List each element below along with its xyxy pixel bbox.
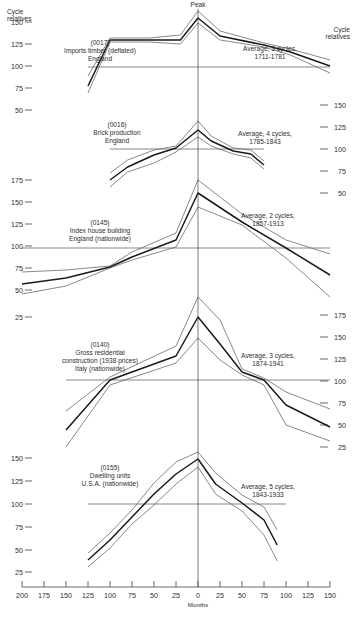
panel-average-label: Average, 4 cycles, — [238, 130, 292, 138]
left-tick-label: 150 — [11, 18, 23, 27]
left-tick-label: 150 — [11, 198, 23, 207]
peak-label: Peak — [190, 1, 206, 8]
left-tick-label: 150 — [11, 454, 23, 463]
right-tick-label: 125 — [334, 123, 346, 132]
right-tick-label: 150 — [334, 101, 346, 110]
panel-average-label: Average, 3 cycles, — [243, 45, 297, 53]
panel-label: Brick production — [93, 129, 141, 137]
panel-0155: (0155)Dwelling unitsU.S.A. (nationwide)A… — [82, 452, 295, 567]
x-tick-label: 125 — [82, 591, 94, 600]
left-y-axis: Cyclerelatives15012510075501751501251007… — [7, 8, 32, 577]
panel-average-label: Average, 3 cycles, — [241, 352, 295, 360]
x-tick-label: 75 — [128, 591, 136, 600]
panel-0145: (0145)Index house buildingEngland (natio… — [22, 180, 330, 297]
panel-average-label: 1785-1843 — [249, 138, 281, 145]
x-tick-label: 125 — [302, 591, 314, 600]
x-tick-label: 175 — [38, 591, 50, 600]
x-tick-label: 0 — [196, 591, 200, 600]
panel-label: Gross residential — [75, 349, 125, 356]
panel-0016: (0016)Brick productionEnglandAverage, 4 … — [93, 121, 292, 187]
left-tick-label: 50 — [15, 106, 23, 115]
panel-average-label: Average, 2 cycles, — [241, 212, 295, 220]
left-tick-label: 50 — [15, 286, 23, 295]
right-tick-label: 150 — [334, 333, 346, 342]
left-tick-label: 125 — [11, 477, 23, 486]
panel-label: U.S.A. (nationwide) — [82, 480, 139, 488]
x-tick-label: 200 — [16, 591, 28, 600]
left-tick-label: 75 — [15, 84, 23, 93]
lower-series-line — [88, 23, 330, 93]
panel-label: England — [88, 55, 113, 63]
x-tick-label: 100 — [280, 591, 292, 600]
left-tick-label: 175 — [11, 176, 23, 185]
right-tick-label: 25 — [338, 443, 346, 452]
left-tick-label: 100 — [11, 62, 23, 71]
peak-marker: Peak — [190, 1, 206, 587]
panel-label: (0016) — [107, 121, 126, 129]
panel-average-label: 1857-1913 — [252, 220, 284, 227]
average-series-line — [110, 130, 264, 180]
lower-series-line — [22, 207, 330, 297]
panel-label: Dwelling units — [90, 472, 131, 480]
left-tick-label: 100 — [11, 500, 23, 509]
left-tick-label: 125 — [11, 40, 23, 49]
x-tick-label: 150 — [324, 591, 336, 600]
panel-label: (0140) — [90, 341, 109, 349]
stacked-cycle-chart: Cyclerelatives15012510075501751501251007… — [0, 0, 353, 620]
right-y-axis: Cyclerelatives15012510075501751501251007… — [320, 26, 351, 452]
panel-average-label: 1711-1781 — [254, 53, 285, 60]
panel-label: Italy (nationwide) — [75, 365, 125, 373]
left-tick-label: 75 — [15, 264, 23, 273]
left-tick-label: 50 — [15, 546, 23, 555]
right-axis-title: relatives — [325, 33, 350, 40]
panel-label: (0017) — [90, 39, 109, 47]
right-tick-label: 100 — [334, 377, 346, 386]
panel-label: construction (1938 prices) — [62, 357, 138, 365]
chart-panels: (0017)Imports timber (deflated)EnglandAv… — [22, 11, 330, 567]
panel-0017: (0017)Imports timber (deflated)EnglandAv… — [64, 11, 330, 93]
x-tick-label: 25 — [172, 591, 180, 600]
x-tick-label: 150 — [60, 591, 72, 600]
x-tick-label: 50 — [150, 591, 158, 600]
right-tick-label: 100 — [334, 145, 346, 154]
right-tick-label: 125 — [334, 355, 346, 364]
x-tick-label: 100 — [104, 591, 116, 600]
panel-0140: (0140)Gross residentialconstruction (193… — [62, 297, 330, 447]
panel-label: (0155) — [100, 464, 119, 472]
panel-label: Imports timber (deflated) — [64, 47, 136, 55]
right-tick-label: 75 — [338, 167, 346, 176]
panel-label: England — [105, 137, 130, 145]
left-tick-label: 25 — [15, 568, 23, 577]
x-axis: 2001751501251007550250255075100125150 — [16, 581, 336, 600]
panel-label: Index house building — [70, 227, 131, 235]
upper-series-line — [88, 11, 330, 76]
panel-label: England (nationwide) — [69, 235, 131, 243]
panel-label: (0145) — [90, 219, 109, 227]
right-tick-label: 50 — [338, 421, 346, 430]
left-tick-label: 100 — [11, 242, 23, 251]
right-tick-label: 75 — [338, 399, 346, 408]
left-tick-label: 75 — [15, 523, 23, 532]
panel-average-label: 1874-1941 — [252, 360, 284, 367]
upper-series-line — [22, 180, 330, 272]
x-tick-label: 25 — [216, 591, 224, 600]
left-tick-label: 125 — [11, 220, 23, 229]
left-tick-label: 25 — [15, 313, 23, 322]
right-tick-label: 175 — [334, 311, 346, 320]
x-tick-label: 50 — [238, 591, 246, 600]
panel-average-label: 1843-1933 — [252, 491, 284, 498]
x-tick-label: 75 — [260, 591, 268, 600]
x-axis-title: Months — [188, 601, 208, 608]
lower-series-line — [110, 137, 264, 187]
panel-average-label: Average, 5 cycles, — [241, 483, 295, 491]
right-tick-label: 50 — [338, 189, 346, 198]
